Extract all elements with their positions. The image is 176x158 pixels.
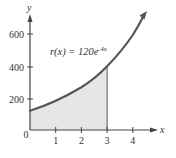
y-axis-label: y bbox=[26, 2, 32, 13]
function-annotation: r(x) = 120e.4x bbox=[50, 45, 108, 58]
chart: y x 600 400 200 0 1 2 3 4 r(x) = 120e.4x bbox=[0, 0, 176, 158]
y-tick-label-400: 400 bbox=[9, 62, 24, 73]
x-tick-label-4: 4 bbox=[130, 135, 135, 146]
y-tick-label-600: 600 bbox=[9, 29, 24, 40]
x-tick-label-3: 3 bbox=[105, 135, 110, 146]
y-tick-label-200: 200 bbox=[9, 94, 24, 105]
annotation-lhs: r(x) = 120e bbox=[50, 46, 99, 58]
x-axis-label: x bbox=[159, 124, 165, 135]
x-tick-label-1: 1 bbox=[53, 135, 58, 146]
x-axis-arrow-icon bbox=[150, 128, 158, 133]
curve-arrow-icon bbox=[140, 11, 148, 20]
origin-label: 0 bbox=[24, 129, 29, 140]
y-axis-arrow-icon bbox=[28, 14, 33, 22]
x-tick-label-2: 2 bbox=[79, 135, 84, 146]
annotation-exponent: .4x bbox=[99, 45, 108, 53]
